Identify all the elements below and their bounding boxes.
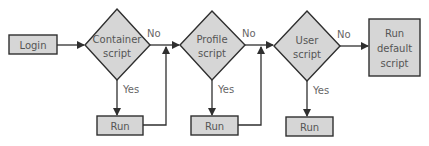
node-login: Login <box>9 35 57 54</box>
edge-label-profile-no: No <box>242 28 256 39</box>
flowchart-canvas: Login Container script Profile script Us… <box>0 0 429 146</box>
node-profile-script: Profile script <box>180 11 245 80</box>
arrow-run2-return <box>238 47 261 125</box>
node-run-2: Run <box>191 116 238 135</box>
run-3-label: Run <box>300 122 319 133</box>
edge-label-container-yes: Yes <box>122 84 139 95</box>
profile-script-label-line2: script <box>198 48 226 59</box>
node-run-1: Run <box>97 116 143 135</box>
edge-label-container-no: No <box>147 28 161 39</box>
arrow-run1-return <box>143 47 166 125</box>
run-2-label: Run <box>205 121 224 132</box>
run-default-label-line1: Run <box>385 28 404 39</box>
container-script-label-line1: Container <box>93 34 143 45</box>
login-label: Login <box>20 40 47 51</box>
profile-script-label-line1: Profile <box>196 34 227 45</box>
user-script-label-line1: User <box>296 35 320 46</box>
flowchart: Login Container script Profile script Us… <box>0 0 429 146</box>
edge-label-profile-yes: Yes <box>217 84 234 95</box>
edge-label-user-yes: Yes <box>312 85 329 96</box>
user-script-label-line2: script <box>293 49 321 60</box>
run-default-label-line2: default <box>377 43 412 54</box>
node-container-script: Container script <box>85 9 150 80</box>
node-run-default-script: Run default script <box>369 19 420 76</box>
node-run-3: Run <box>286 117 333 136</box>
run-default-label-line3: script <box>381 58 409 69</box>
run-1-label: Run <box>110 121 129 132</box>
edge-label-user-no: No <box>337 29 351 40</box>
container-script-label-line2: script <box>103 48 131 59</box>
node-user-script: User script <box>274 11 340 81</box>
